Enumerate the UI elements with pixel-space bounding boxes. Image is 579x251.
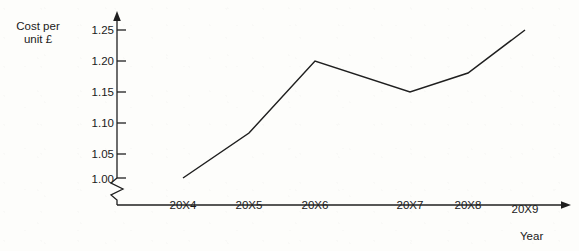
plot-area — [0, 0, 579, 251]
y-axis-arrowhead — [113, 11, 121, 21]
data-line-cost-per-unit — [183, 30, 525, 178]
y-axis-break-zigzag — [111, 178, 123, 205]
line-chart: Cost per unit £ 1.25 1.20 1.15 1.10 1.05… — [0, 0, 579, 251]
y-axis-group — [111, 11, 126, 205]
x-axis-group — [117, 201, 571, 209]
x-axis-arrowhead — [561, 201, 571, 209]
